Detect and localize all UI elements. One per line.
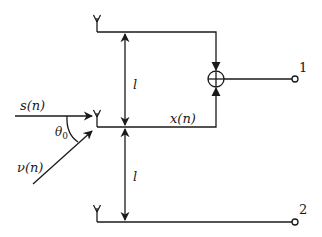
top-signal-path xyxy=(97,32,216,70)
summing-junction-icon xyxy=(208,71,224,87)
angle-arc xyxy=(67,116,78,142)
source-signal-label: s(n) xyxy=(20,98,45,113)
output-2-label: 2 xyxy=(299,202,307,217)
antenna-diagram: 1 2 l l s(n) ν(n) θ0 x(n) xyxy=(0,0,322,237)
angle-label: θ0 xyxy=(55,125,68,141)
spacing-label-top: l xyxy=(133,77,137,92)
output-terminal-1 xyxy=(292,76,298,82)
middle-signal-path xyxy=(97,88,216,127)
output-terminal-2 xyxy=(292,219,298,225)
interference-signal-label: ν(n) xyxy=(17,160,43,175)
antenna-bottom-icon xyxy=(94,205,101,222)
antenna-top-icon xyxy=(94,15,101,32)
antenna-middle-icon xyxy=(94,110,101,127)
output-1-label: 1 xyxy=(299,60,307,75)
spacing-label-bottom: l xyxy=(133,169,137,184)
middle-output-label: x(n) xyxy=(170,111,196,126)
